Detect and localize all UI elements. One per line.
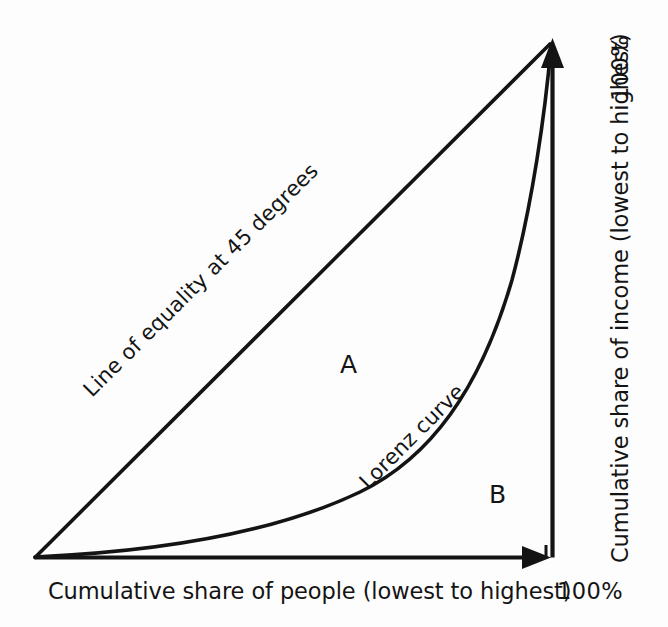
lorenz-curve-label: Lorenz curve [355, 380, 469, 494]
line-of-equality [35, 44, 550, 558]
x-axis-max-label: 100% [557, 578, 623, 604]
y-axis-caption: Cumulative share of income (lowest to hi… [607, 33, 633, 563]
lorenz-curve-figure: Line of equality at 45 degrees Lorenz cu… [0, 0, 668, 627]
region-b-label: B [489, 480, 506, 509]
x-axis [35, 546, 551, 569]
line-of-equality-label: Line of equality at 45 degrees [79, 159, 323, 402]
region-a-label: A [340, 350, 357, 379]
lorenz-diagram-svg: Line of equality at 45 degrees Lorenz cu… [0, 0, 668, 627]
y-axis-arrowhead-icon [541, 38, 564, 68]
y-axis-max-label: 100% [607, 35, 633, 101]
x-axis-caption: Cumulative share of people (lowest to hi… [48, 578, 571, 604]
